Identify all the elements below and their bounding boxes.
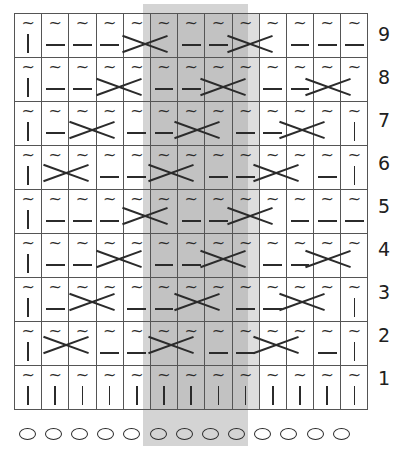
- chart-cell[interactable]: ~: [15, 322, 42, 366]
- chart-cell[interactable]: ~: [150, 146, 177, 190]
- chart-cell[interactable]: ~: [341, 14, 368, 58]
- chart-cell[interactable]: ~: [150, 190, 177, 234]
- chart-cell[interactable]: ~: [96, 14, 123, 58]
- chart-cell[interactable]: ~: [259, 14, 286, 58]
- chart-cell[interactable]: ~: [69, 102, 96, 146]
- chart-cell[interactable]: ~: [178, 278, 205, 322]
- chart-cell[interactable]: ~: [150, 58, 177, 102]
- chart-cell[interactable]: ~: [42, 278, 69, 322]
- chart-cell[interactable]: ~: [205, 102, 232, 146]
- chart-cell[interactable]: ~: [205, 234, 232, 278]
- chart-cell[interactable]: ~: [15, 58, 42, 102]
- chart-cell[interactable]: ~: [42, 366, 69, 410]
- chart-cell[interactable]: ~: [341, 102, 368, 146]
- chart-cell[interactable]: ~: [232, 146, 259, 190]
- chart-cell[interactable]: ~: [314, 366, 341, 410]
- chart-cell[interactable]: ~: [178, 58, 205, 102]
- chart-cell[interactable]: ~: [232, 234, 259, 278]
- chart-cell[interactable]: ~: [123, 58, 150, 102]
- chart-cell[interactable]: ~: [314, 322, 341, 366]
- chart-cell[interactable]: ~: [178, 14, 205, 58]
- chart-cell[interactable]: ~: [205, 322, 232, 366]
- chart-cell[interactable]: ~: [150, 14, 177, 58]
- chart-cell[interactable]: ~: [259, 190, 286, 234]
- chart-cell[interactable]: ~: [123, 146, 150, 190]
- chart-cell[interactable]: ~: [341, 366, 368, 410]
- chart-cell[interactable]: ~: [15, 102, 42, 146]
- chart-cell[interactable]: ~: [150, 366, 177, 410]
- chart-cell[interactable]: ~: [42, 322, 69, 366]
- chart-cell[interactable]: ~: [286, 234, 313, 278]
- chart-cell[interactable]: ~: [232, 278, 259, 322]
- chart-cell[interactable]: ~: [314, 190, 341, 234]
- chart-cell[interactable]: ~: [205, 190, 232, 234]
- chart-cell[interactable]: ~: [314, 234, 341, 278]
- chart-cell[interactable]: ~: [259, 278, 286, 322]
- chart-cell[interactable]: ~: [259, 58, 286, 102]
- chart-cell[interactable]: ~: [69, 146, 96, 190]
- chart-cell[interactable]: ~: [232, 58, 259, 102]
- chart-cell[interactable]: ~: [314, 14, 341, 58]
- chart-cell[interactable]: ~: [42, 234, 69, 278]
- chart-cell[interactable]: ~: [178, 322, 205, 366]
- chart-cell[interactable]: ~: [15, 14, 42, 58]
- chart-cell[interactable]: ~: [232, 190, 259, 234]
- chart-cell[interactable]: ~: [69, 322, 96, 366]
- chart-cell[interactable]: ~: [42, 190, 69, 234]
- chart-cell[interactable]: ~: [150, 102, 177, 146]
- chart-cell[interactable]: ~: [96, 278, 123, 322]
- chart-cell[interactable]: ~: [205, 58, 232, 102]
- chart-cell[interactable]: ~: [341, 190, 368, 234]
- chart-cell[interactable]: ~: [286, 58, 313, 102]
- chart-cell[interactable]: ~: [42, 102, 69, 146]
- chart-cell[interactable]: ~: [178, 190, 205, 234]
- chart-cell[interactable]: ~: [42, 14, 69, 58]
- chart-cell[interactable]: ~: [232, 14, 259, 58]
- chart-cell[interactable]: ~: [123, 366, 150, 410]
- chart-cell[interactable]: ~: [150, 322, 177, 366]
- chart-cell[interactable]: ~: [341, 322, 368, 366]
- chart-cell[interactable]: ~: [259, 146, 286, 190]
- chart-cell[interactable]: ~: [286, 190, 313, 234]
- chart-cell[interactable]: ~: [178, 366, 205, 410]
- chart-cell[interactable]: ~: [15, 190, 42, 234]
- chart-cell[interactable]: ~: [205, 366, 232, 410]
- chart-cell[interactable]: ~: [259, 366, 286, 410]
- chart-cell[interactable]: ~: [314, 102, 341, 146]
- chart-cell[interactable]: ~: [341, 278, 368, 322]
- chart-cell[interactable]: ~: [96, 322, 123, 366]
- chart-cell[interactable]: ~: [42, 58, 69, 102]
- chart-cell[interactable]: ~: [314, 146, 341, 190]
- chart-cell[interactable]: ~: [69, 190, 96, 234]
- chart-cell[interactable]: ~: [286, 278, 313, 322]
- chart-cell[interactable]: ~: [205, 278, 232, 322]
- chart-cell[interactable]: ~: [205, 14, 232, 58]
- chart-cell[interactable]: ~: [286, 14, 313, 58]
- chart-cell[interactable]: ~: [314, 58, 341, 102]
- chart-cell[interactable]: ~: [150, 234, 177, 278]
- chart-cell[interactable]: ~: [259, 322, 286, 366]
- chart-cell[interactable]: ~: [96, 102, 123, 146]
- chart-cell[interactable]: ~: [286, 322, 313, 366]
- chart-cell[interactable]: ~: [178, 102, 205, 146]
- chart-cell[interactable]: ~: [96, 146, 123, 190]
- chart-cell[interactable]: ~: [259, 102, 286, 146]
- chart-cell[interactable]: ~: [69, 366, 96, 410]
- chart-cell[interactable]: ~: [15, 366, 42, 410]
- chart-cell[interactable]: ~: [232, 102, 259, 146]
- chart-cell[interactable]: ~: [42, 146, 69, 190]
- chart-cell[interactable]: ~: [69, 14, 96, 58]
- chart-cell[interactable]: ~: [178, 146, 205, 190]
- chart-cell[interactable]: ~: [69, 278, 96, 322]
- chart-cell[interactable]: ~: [15, 146, 42, 190]
- chart-cell[interactable]: ~: [341, 58, 368, 102]
- chart-cell[interactable]: ~: [123, 278, 150, 322]
- chart-cell[interactable]: ~: [286, 366, 313, 410]
- chart-cell[interactable]: ~: [286, 102, 313, 146]
- chart-cell[interactable]: ~: [123, 102, 150, 146]
- chart-cell[interactable]: ~: [96, 234, 123, 278]
- chart-cell[interactable]: ~: [150, 278, 177, 322]
- chart-cell[interactable]: ~: [205, 146, 232, 190]
- chart-cell[interactable]: ~: [69, 234, 96, 278]
- chart-cell[interactable]: ~: [15, 278, 42, 322]
